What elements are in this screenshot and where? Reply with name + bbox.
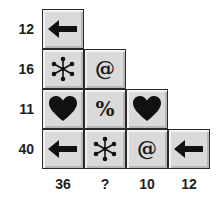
cell-r2-c2: @	[84, 49, 126, 89]
column-total-2-unknown: ?	[84, 174, 126, 194]
cell-r3-c2: %	[84, 89, 126, 129]
cell-r4-c2	[84, 129, 126, 169]
row-total-4: 40	[4, 129, 34, 169]
cell-r4-c4	[168, 129, 210, 169]
arrow-left-icon	[174, 139, 204, 159]
cell-r3-c3	[126, 89, 168, 129]
percent-icon: %	[95, 97, 114, 121]
row-total-1: 12	[4, 9, 34, 49]
cell-r2-c1	[42, 49, 84, 89]
cell-r4-c3: @	[126, 129, 168, 169]
heart-icon	[133, 96, 161, 122]
at-symbol-icon: @	[137, 137, 157, 161]
asterisk-icon	[50, 56, 76, 82]
at-symbol-icon: @	[95, 57, 115, 81]
asterisk-icon	[92, 136, 118, 162]
row-total-3: 11	[4, 89, 34, 129]
column-total-3: 10	[126, 174, 168, 194]
arrow-left-icon	[48, 139, 78, 159]
cell-r1-c1	[42, 9, 84, 49]
heart-icon	[49, 96, 77, 122]
arrow-left-icon	[48, 19, 78, 39]
row-total-2: 16	[4, 49, 34, 89]
column-total-4: 12	[168, 174, 210, 194]
cell-r4-c1	[42, 129, 84, 169]
cell-r3-c1	[42, 89, 84, 129]
column-total-1: 36	[42, 174, 84, 194]
